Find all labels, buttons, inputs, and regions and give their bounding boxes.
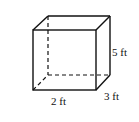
depth-label: 3 ft: [104, 91, 119, 102]
edge-top-right: [96, 16, 110, 30]
edge-bottom-right: [96, 75, 110, 90]
hidden-edge-bottom-left: [33, 75, 48, 90]
rectangular-prism: [0, 0, 139, 122]
front-face: [33, 30, 96, 90]
edge-top-left: [33, 16, 48, 30]
height-label: 5 ft: [112, 47, 127, 58]
width-label: 2 ft: [51, 96, 66, 107]
